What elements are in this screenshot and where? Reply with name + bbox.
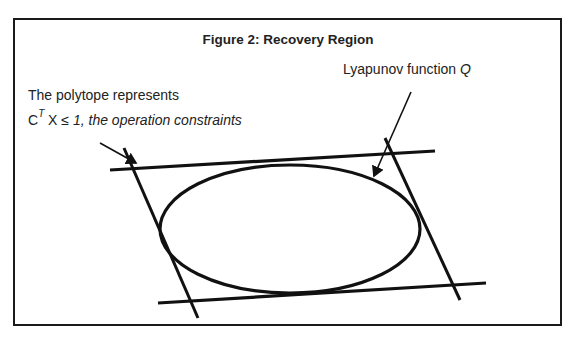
top-constraint-line: [110, 151, 435, 170]
polytope-arrow: [100, 143, 136, 163]
left-constraint-line: [124, 148, 198, 318]
recovery-region-diagram: [0, 0, 576, 337]
lyapunov-ellipse: [160, 165, 420, 293]
lyapunov-arrow: [374, 92, 411, 176]
bottom-constraint-line: [158, 283, 486, 303]
right-constraint-line: [385, 138, 460, 300]
